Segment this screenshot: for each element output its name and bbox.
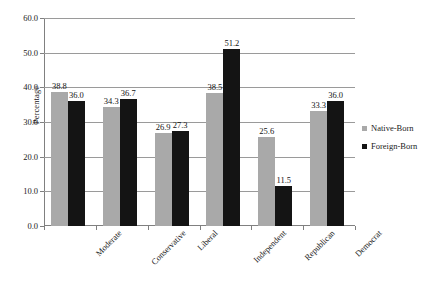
- y-axis-tick-label: 40.0: [6, 83, 38, 92]
- bar-group: 26.927.3: [148, 18, 200, 226]
- y-axis-tick-label: 60.0: [6, 14, 38, 23]
- y-axis-tick-label: 20.0: [6, 153, 38, 162]
- legend-label: Foreign-Born: [371, 142, 417, 151]
- x-axis-category-label: Independent: [252, 228, 289, 265]
- bar[interactable]: [155, 133, 172, 226]
- bar-value-label: 51.2: [218, 39, 246, 48]
- x-axis-category-label: Republican: [303, 228, 337, 262]
- bar[interactable]: [51, 92, 68, 227]
- bar[interactable]: [120, 99, 137, 226]
- legend-label: Native-Born: [371, 124, 414, 133]
- bar-value-label: 27.3: [166, 121, 194, 130]
- x-axis-category-label: Moderate: [93, 228, 123, 258]
- x-axis-category-labels: ModerateConservativeLiberalIndependentRe…: [44, 226, 355, 293]
- bar-group: 38.836.0: [44, 18, 96, 226]
- bar-group: 33.336.0: [303, 18, 355, 226]
- bar[interactable]: [103, 107, 120, 226]
- legend-swatch-foreign-born-icon: [362, 144, 367, 149]
- chart-legend: Native-BornForeign-Born: [362, 121, 436, 157]
- bar[interactable]: [327, 101, 344, 226]
- plot-area: 38.836.034.336.726.927.338.551.225.611.5…: [44, 18, 355, 226]
- bar[interactable]: [275, 186, 292, 226]
- bar-value-label: 38.8: [45, 82, 73, 91]
- y-axis-tick-label: 10.0: [6, 187, 38, 196]
- x-axis-category-label: Liberal: [195, 228, 219, 252]
- x-axis-category-label: Conservative: [149, 228, 188, 267]
- bar[interactable]: [310, 111, 327, 226]
- x-axis-tick: [355, 226, 356, 230]
- legend-item[interactable]: Foreign-Born: [362, 139, 436, 153]
- bar-value-label: 36.0: [62, 91, 90, 100]
- bar-chart: Percentage 60.050.040.030.020.010.00.0 3…: [0, 0, 439, 293]
- bar-value-label: 11.5: [270, 176, 298, 185]
- bar[interactable]: [206, 93, 223, 226]
- y-axis-tick-label: 30.0: [6, 118, 38, 127]
- bar-value-label: 36.0: [322, 91, 350, 100]
- bar-group: 38.551.2: [200, 18, 252, 226]
- legend-swatch-native-born-icon: [362, 126, 367, 131]
- bar[interactable]: [223, 49, 240, 226]
- bar[interactable]: [172, 131, 189, 226]
- legend-item[interactable]: Native-Born: [362, 121, 436, 135]
- bar-value-label: 36.7: [114, 89, 142, 98]
- y-axis-tick-label: 50.0: [6, 49, 38, 58]
- bar-group: 25.611.5: [251, 18, 303, 226]
- bar[interactable]: [68, 101, 85, 226]
- bar-value-label: 25.6: [253, 127, 281, 136]
- bar-group: 34.336.7: [96, 18, 148, 226]
- x-axis-category-label: Democrat: [353, 228, 384, 259]
- y-axis-tick-label: 0.0: [6, 222, 38, 231]
- y-axis-tick-labels: 60.050.040.030.020.010.00.0: [0, 0, 38, 293]
